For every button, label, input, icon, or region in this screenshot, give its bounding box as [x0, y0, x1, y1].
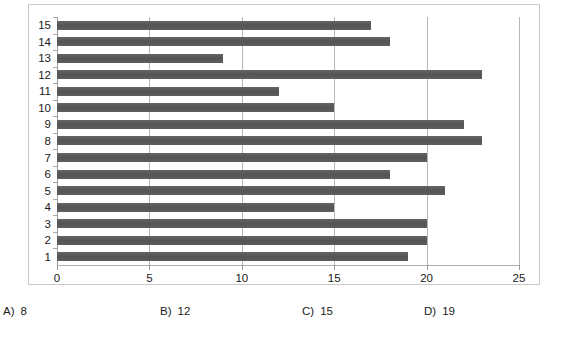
- bar-row: [57, 248, 408, 265]
- y-tick-5: [53, 182, 57, 183]
- bar-2: [57, 236, 427, 245]
- gridline-25: [519, 17, 520, 265]
- bar-14: [57, 37, 390, 46]
- bar-row: [57, 215, 427, 232]
- y-axis-label-8: 8: [45, 135, 51, 147]
- y-tick-1: [53, 248, 57, 249]
- cut-off-text: [8, 0, 11, 3]
- bar-13: [57, 54, 223, 63]
- x-tick-20: [427, 265, 428, 270]
- y-tick-14: [53, 34, 57, 35]
- y-tick-9: [53, 116, 57, 117]
- bar-row: [57, 133, 482, 150]
- y-tick-11: [53, 83, 57, 84]
- y-tick-8: [53, 133, 57, 134]
- bar-row: [57, 149, 427, 166]
- y-tick-13: [53, 50, 57, 51]
- bar-8: [57, 136, 482, 145]
- answer-option-a-label: A): [3, 305, 15, 317]
- y-axis-label-4: 4: [45, 201, 51, 213]
- y-axis-label-1: 1: [45, 251, 51, 263]
- bar-row: [57, 17, 371, 34]
- plot-area: 123456789101112131415 0510152025: [57, 17, 519, 265]
- bar-11: [57, 87, 279, 96]
- x-axis-label-15: 15: [328, 272, 341, 284]
- y-tick-2: [53, 232, 57, 233]
- x-axis-line: [57, 265, 519, 266]
- y-axis-label-11: 11: [39, 85, 51, 97]
- y-axis-label-2: 2: [45, 234, 51, 246]
- y-axis-label-14: 14: [38, 36, 51, 48]
- answer-option-c[interactable]: C)15: [302, 305, 333, 317]
- bar-5: [57, 186, 445, 195]
- y-axis-label-10: 10: [38, 102, 51, 114]
- x-tick-0: [57, 265, 58, 270]
- bar-row: [57, 34, 390, 51]
- y-tick-10: [53, 100, 57, 101]
- x-tick-10: [242, 265, 243, 270]
- bar-9: [57, 120, 464, 129]
- y-axis-label-5: 5: [45, 185, 51, 197]
- y-axis-label-12: 12: [38, 69, 51, 81]
- bar-15: [57, 21, 371, 30]
- x-tick-15: [334, 265, 335, 270]
- y-tick-7: [53, 149, 57, 150]
- x-axis-label-20: 20: [420, 272, 433, 284]
- x-axis-label-5: 5: [146, 272, 152, 284]
- x-axis-label-0: 0: [54, 272, 60, 284]
- bar-4: [57, 203, 334, 212]
- y-tick-15: [53, 17, 57, 18]
- y-axis-label-13: 13: [38, 52, 51, 64]
- bar-chart-plot: 123456789101112131415 0510152025: [29, 5, 539, 284]
- y-axis-label-3: 3: [45, 218, 51, 230]
- bar-1: [57, 252, 408, 261]
- bar-3: [57, 219, 427, 228]
- bar-7: [57, 153, 427, 162]
- y-axis-label-7: 7: [45, 152, 51, 164]
- x-axis-label-10: 10: [235, 272, 248, 284]
- bar-row: [57, 182, 445, 199]
- answer-option-d[interactable]: D)19: [424, 305, 455, 317]
- y-axis-label-15: 15: [38, 19, 51, 31]
- bar-12: [57, 70, 482, 79]
- x-tick-25: [519, 265, 520, 270]
- bar-6: [57, 170, 390, 179]
- bar-row: [57, 199, 334, 216]
- answer-option-a-value: 8: [21, 305, 27, 317]
- answer-option-c-value: 15: [320, 305, 333, 317]
- answer-option-b-label: B): [160, 305, 172, 317]
- bar-10: [57, 103, 334, 112]
- answer-option-a[interactable]: A)8: [3, 305, 27, 317]
- chart-container: 123456789101112131415 0510152025: [28, 4, 540, 285]
- bar-row: [57, 100, 334, 117]
- y-tick-12: [53, 67, 57, 68]
- bar-row: [57, 67, 482, 84]
- x-axis-label-25: 25: [513, 272, 526, 284]
- y-tick-3: [53, 215, 57, 216]
- bar-row: [57, 166, 390, 183]
- bar-row: [57, 50, 223, 67]
- answer-options: A)8 B)12 C)15 D)19: [0, 305, 570, 335]
- bar-row: [57, 83, 279, 100]
- bar-row: [57, 116, 464, 133]
- answer-option-d-label: D): [424, 305, 436, 317]
- y-axis-label-6: 6: [45, 168, 51, 180]
- y-tick-4: [53, 199, 57, 200]
- y-tick-6: [53, 166, 57, 167]
- answer-option-b[interactable]: B)12: [160, 305, 190, 317]
- x-tick-5: [149, 265, 150, 270]
- y-axis-label-9: 9: [45, 118, 51, 130]
- bar-row: [57, 232, 427, 249]
- bar-series: [57, 17, 519, 265]
- answer-option-d-value: 19: [442, 305, 455, 317]
- answer-option-c-label: C): [302, 305, 314, 317]
- answer-option-b-value: 12: [178, 305, 191, 317]
